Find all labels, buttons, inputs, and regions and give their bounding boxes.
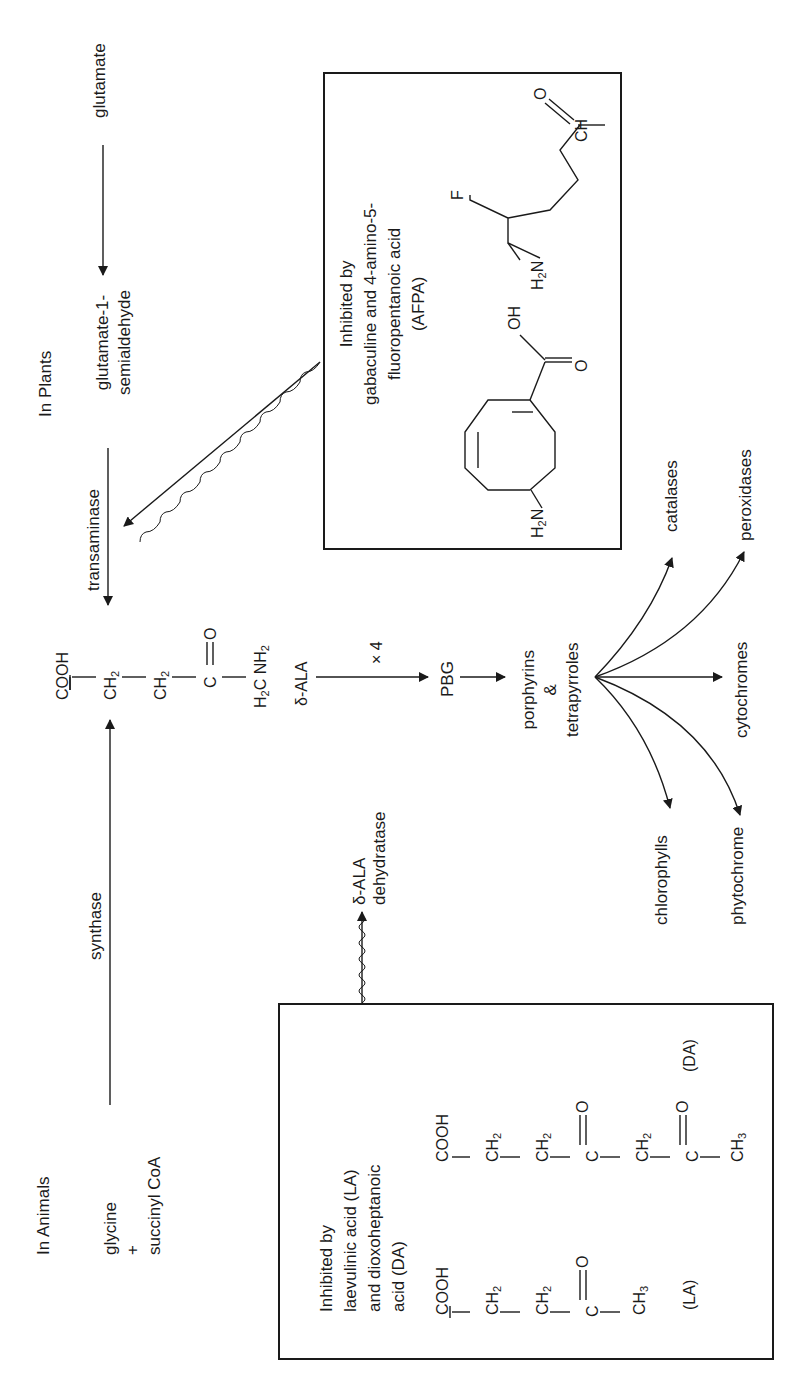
ala-h2c-nh2: H2C NH2	[251, 645, 275, 708]
inhibition-arrow-transaminase	[124, 362, 320, 526]
gabaculine-amine: H2N	[528, 509, 552, 538]
glutamate-label: glutamate	[90, 43, 110, 118]
animals-inhibitor-caption: Inhibited by laevulinic acid (LA) and di…	[315, 1165, 411, 1312]
arrow-to-peroxidases	[595, 552, 744, 677]
plants-inhibitor-line2: gabaculine and 4-amino-5-	[359, 203, 383, 405]
la-ch3: CH3	[630, 1286, 654, 1315]
la-oxo: O	[573, 1256, 593, 1268]
plants-inhibitor-line3: fluoropentanoic acid	[383, 203, 407, 405]
la-ch2-a: CH2	[483, 1286, 507, 1315]
ala-oxo: O	[201, 628, 221, 640]
afpa-fluorine: F	[448, 190, 468, 200]
da-ch2-c: CH2	[633, 1133, 657, 1162]
dehydratase-line1: δ-ALA	[350, 811, 370, 905]
la-cooh: COOH	[433, 1267, 453, 1315]
afpa-amine: H2N	[528, 261, 552, 290]
multiplier-label: × 4	[367, 641, 387, 664]
ala-cooh: COOH	[53, 652, 73, 700]
da-oxo2: O	[673, 1101, 693, 1113]
arrow-to-chlorophylls	[595, 677, 670, 808]
plants-heading: In Plants	[36, 351, 56, 417]
branch-catalases: catalases	[662, 460, 682, 532]
afpa-oxo: O	[531, 88, 551, 100]
dehydratase-label: δ-ALA dehydratase	[350, 811, 390, 905]
afpa-aldehyde: CH	[572, 119, 592, 142]
da-cooh: COOH	[433, 1114, 453, 1162]
da-label: (DA)	[680, 1039, 700, 1072]
da-ch2-b: CH2	[533, 1133, 557, 1162]
gsa-line2: semialdehyde	[114, 290, 136, 395]
porphyrins-line2: &	[540, 643, 562, 737]
animal-substrates: glycine + succinyl CoA	[100, 1157, 166, 1255]
animals-inhibitor-line4: acid (DA)	[387, 1165, 411, 1312]
porphyrin-biosynthesis-diagram: In Plants glutamate glutamate-1- semiald…	[0, 0, 791, 1376]
animals-heading: In Animals	[34, 1177, 54, 1255]
porphyrins-label: porphyrins & tetrapyrroles	[518, 643, 584, 737]
substrate-succinyl-coa: succinyl CoA	[144, 1157, 166, 1255]
transaminase-label: transaminase	[84, 489, 104, 591]
gabaculine-oxo: O	[572, 360, 592, 372]
plus-sign: +	[122, 1157, 144, 1255]
porphyrins-line3: tetrapyrroles	[562, 643, 584, 737]
gsa-line1: glutamate-1-	[92, 290, 114, 395]
da-oxo1: O	[573, 1101, 593, 1113]
plants-inhibitor-caption: Inhibited by gabaculine and 4-amino-5- f…	[335, 203, 431, 405]
la-label: (LA)	[680, 1280, 700, 1310]
branch-chlorophylls: chlorophylls	[652, 835, 672, 925]
gsa-label: glutamate-1- semialdehyde	[92, 290, 136, 395]
ala-ch2-a: CH2	[101, 671, 125, 700]
pbg-label: PBG	[438, 661, 458, 697]
la-ch2-b: CH2	[533, 1286, 557, 1315]
arrow-to-phytochrome	[595, 677, 740, 815]
ala-ch2-b: CH2	[151, 671, 175, 700]
ala-name: δ-ALA	[292, 662, 312, 706]
gabaculine-oh: OH	[505, 306, 525, 330]
animals-inhibitor-line2: laevulinic acid (LA)	[339, 1165, 363, 1312]
branch-cytochromes: cytochromes	[732, 642, 752, 738]
arrow-to-catalases	[595, 558, 672, 677]
plants-inhibitor-line4: (AFPA)	[407, 203, 431, 405]
porphyrins-line1: porphyrins	[518, 643, 540, 737]
dehydratase-line2: dehydratase	[370, 811, 390, 905]
ala-carbonyl-c: C	[201, 676, 221, 688]
da-ch2-a: CH2	[483, 1133, 507, 1162]
da-carbonyl-c1: C	[583, 1150, 603, 1162]
animals-inhibitor-line3: and dioxoheptanoic	[363, 1165, 387, 1312]
plants-inhibitor-line1: Inhibited by	[335, 203, 359, 405]
branch-phytochrome: phytochrome	[728, 827, 748, 925]
da-ch3: CH3	[728, 1133, 752, 1162]
da-carbonyl-c2: C	[683, 1150, 703, 1162]
substrate-glycine: glycine	[100, 1157, 122, 1255]
animals-inhibitor-line1: Inhibited by	[315, 1165, 339, 1312]
synthase-label: synthase	[86, 892, 106, 960]
la-carbonyl-c: C	[583, 1305, 603, 1317]
branch-peroxidases: peroxidases	[736, 449, 756, 541]
